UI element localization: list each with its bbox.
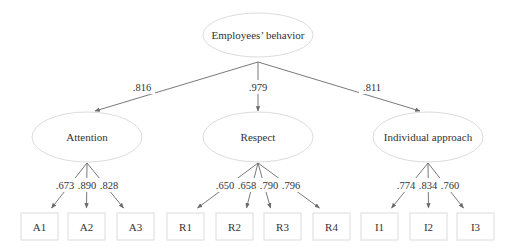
indicator-label: A2: [80, 221, 93, 233]
path-loading-label: .816: [133, 82, 151, 93]
indicator-label: I1: [375, 221, 384, 233]
indicator-label: R3: [276, 221, 289, 233]
indicator-label: R2: [228, 221, 241, 233]
indicator-label: A1: [33, 221, 46, 233]
indicator-loading-label: .828: [100, 180, 118, 191]
sem-diagram: Employees’ behavior.816AttentionA1.673A2…: [0, 0, 514, 250]
indicator-label: I3: [471, 221, 481, 233]
indicator-loading-label: .890: [78, 180, 96, 191]
indicator-label: R4: [325, 221, 338, 233]
indicator-label: I2: [424, 221, 433, 233]
latent-node-label: Respect: [241, 131, 276, 143]
indicator-label: R1: [179, 221, 192, 233]
latent-node-label: Individual approach: [384, 131, 473, 143]
path-arrow-ind: [258, 62, 420, 111]
latent-node-label: Attention: [66, 131, 108, 143]
indicator-loading-label: .673: [56, 180, 74, 191]
indicator-loading-label: .796: [282, 180, 300, 191]
indicator-loading-label: .774: [397, 180, 416, 191]
indicator-loading-label: .790: [260, 180, 278, 191]
path-loading-label: .811: [363, 82, 381, 93]
indicator-loading-label: .650: [216, 180, 234, 191]
latent-node-label: Employees’ behavior: [212, 29, 305, 41]
path-loading-label: .979: [249, 82, 267, 93]
indicator-label: A3: [129, 221, 143, 233]
path-arrow-att: [95, 62, 258, 111]
indicator-loading-label: .658: [238, 180, 256, 191]
indicator-loading-label: .760: [441, 180, 459, 191]
indicator-loading-label: .834: [419, 180, 438, 191]
